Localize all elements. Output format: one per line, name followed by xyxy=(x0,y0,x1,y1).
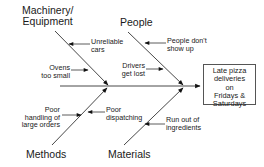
category-machinery-label: Machinery/ Equipment xyxy=(22,5,73,27)
cause-text-line: too small xyxy=(36,72,70,80)
cause-unreliable-cars: Unreliable cars xyxy=(91,38,123,53)
cause-poor-handling-large-orders: Poor handling of large orders xyxy=(8,106,60,129)
cause-text-line: large orders xyxy=(8,121,60,129)
category-people-label: People xyxy=(120,17,153,28)
bone-methods xyxy=(52,88,107,145)
cause-text-line: get lost xyxy=(113,70,145,78)
effect-line: Saturdays xyxy=(204,100,255,108)
cause-text-line: dispatching xyxy=(106,114,142,122)
cause-people-dont-show-up: People don't show up xyxy=(167,37,207,52)
cause-run-out-of-ingredients: Run out of ingredients xyxy=(166,116,201,131)
category-methods-label: Methods xyxy=(26,149,66,160)
cause-text-line: ingredients xyxy=(166,124,201,132)
cause-text-line: cars xyxy=(91,46,123,54)
category-materials-label: Materials xyxy=(108,149,151,160)
category-machinery-line2: Equipment xyxy=(22,16,73,27)
cause-drivers-get-lost: Drivers get lost xyxy=(113,62,145,77)
cause-text-line: show up xyxy=(167,45,207,53)
cause-ovens-too-small: Ovens too small xyxy=(36,64,70,79)
effect-box: Late pizza deliveries on Fridays & Satur… xyxy=(203,64,256,105)
cause-poor-dispatching: Poor dispatching xyxy=(106,106,142,121)
